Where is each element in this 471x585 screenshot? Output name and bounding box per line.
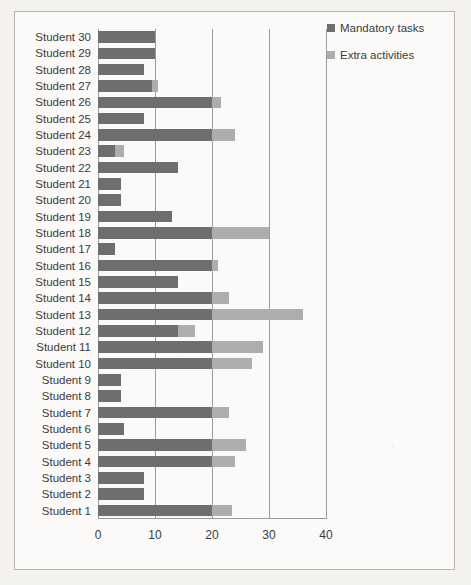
chart-legend: Mandatory tasksExtra activities bbox=[327, 22, 452, 76]
y-axis-label: Student 5 bbox=[29, 437, 95, 453]
bar-segment-mandatory bbox=[98, 178, 121, 190]
legend-item[interactable]: Extra activities bbox=[327, 49, 452, 61]
bar-segment-extra bbox=[212, 129, 235, 141]
bar-row bbox=[98, 339, 326, 355]
bar-segment-mandatory bbox=[98, 456, 212, 468]
bar-segment-extra bbox=[212, 309, 303, 321]
bar-row bbox=[98, 503, 326, 519]
bar-row bbox=[98, 307, 326, 323]
y-axis-label: Student 27 bbox=[29, 78, 95, 94]
bar-segment-mandatory bbox=[98, 31, 155, 43]
y-axis-label: Student 11 bbox=[29, 339, 95, 355]
bar-segment-mandatory bbox=[98, 407, 212, 419]
bar-row bbox=[98, 290, 326, 306]
bar-segment-mandatory bbox=[98, 390, 121, 402]
bar-row bbox=[98, 323, 326, 339]
y-axis-label: Student 8 bbox=[29, 388, 95, 404]
bar-row bbox=[98, 486, 326, 502]
bar-segment-extra bbox=[212, 439, 246, 451]
bar-segment-mandatory bbox=[98, 309, 212, 321]
bar-segment-extra bbox=[212, 97, 221, 109]
bar-segment-mandatory bbox=[98, 211, 172, 223]
bar-segment-mandatory bbox=[98, 505, 212, 517]
y-axis-label: Student 1 bbox=[29, 503, 95, 519]
x-tick-label: 40 bbox=[319, 528, 332, 542]
bar-segment-extra bbox=[212, 456, 235, 468]
plot-area bbox=[98, 29, 326, 519]
y-axis-label: Student 18 bbox=[29, 225, 95, 241]
bar-segment-mandatory bbox=[98, 292, 212, 304]
bar-segment-mandatory bbox=[98, 80, 152, 92]
bar-segment-mandatory bbox=[98, 162, 178, 174]
y-axis-label: Student 9 bbox=[29, 372, 95, 388]
bar-row bbox=[98, 209, 326, 225]
y-axis-label: Student 6 bbox=[29, 421, 95, 437]
bar-segment-mandatory bbox=[98, 260, 212, 272]
x-axis-line bbox=[98, 518, 326, 519]
bar-segment-mandatory bbox=[98, 129, 212, 141]
y-axis-label: Student 13 bbox=[29, 307, 95, 323]
y-axis-label: Student 23 bbox=[29, 143, 95, 159]
bar-segment-mandatory bbox=[98, 227, 212, 239]
y-axis-label: Student 29 bbox=[29, 45, 95, 61]
bar-segment-mandatory bbox=[98, 358, 212, 370]
bar-segment-mandatory bbox=[98, 145, 115, 157]
bar-segment-extra bbox=[212, 505, 232, 517]
y-axis-label: Student 14 bbox=[29, 290, 95, 306]
bar-segment-extra bbox=[212, 260, 218, 272]
y-axis-label: Student 25 bbox=[29, 111, 95, 127]
bar-segment-mandatory bbox=[98, 488, 144, 500]
bar-row bbox=[98, 225, 326, 241]
bar-row bbox=[98, 29, 326, 45]
bar-row bbox=[98, 405, 326, 421]
bar-row bbox=[98, 94, 326, 110]
bar-segment-mandatory bbox=[98, 325, 178, 337]
y-axis-label: Student 22 bbox=[29, 160, 95, 176]
bar-row bbox=[98, 127, 326, 143]
legend-swatch-extra bbox=[327, 51, 335, 59]
bar-segment-mandatory bbox=[98, 97, 212, 109]
y-axis-label: Student 4 bbox=[29, 454, 95, 470]
bar-row bbox=[98, 241, 326, 257]
y-axis-label: Student 3 bbox=[29, 470, 95, 486]
bar-row bbox=[98, 62, 326, 78]
bar-row bbox=[98, 192, 326, 208]
legend-swatch-mandatory bbox=[327, 24, 335, 32]
bar-segment-mandatory bbox=[98, 423, 124, 435]
bar-segment-extra bbox=[212, 292, 229, 304]
bar-row bbox=[98, 111, 326, 127]
bar-segment-extra bbox=[115, 145, 124, 157]
bar-row bbox=[98, 258, 326, 274]
legend-item[interactable]: Mandatory tasks bbox=[327, 22, 452, 34]
bar-segment-mandatory bbox=[98, 48, 155, 60]
bar-row bbox=[98, 78, 326, 94]
bar-segment-extra bbox=[212, 341, 263, 353]
bar-segment-extra bbox=[178, 325, 195, 337]
bar-row bbox=[98, 388, 326, 404]
bar-row bbox=[98, 143, 326, 159]
x-tick-label: 30 bbox=[262, 528, 275, 542]
bar-row bbox=[98, 437, 326, 453]
x-axis-tick-labels: 010203040 bbox=[98, 528, 358, 548]
y-axis-label: Student 15 bbox=[29, 274, 95, 290]
legend-label: Mandatory tasks bbox=[340, 22, 424, 34]
bar-row bbox=[98, 421, 326, 437]
gridline-40 bbox=[326, 29, 327, 519]
y-axis-label: Student 21 bbox=[29, 176, 95, 192]
bar-segment-extra bbox=[212, 407, 229, 419]
bar-row bbox=[98, 470, 326, 486]
bar-rows bbox=[98, 29, 326, 519]
bar-row bbox=[98, 274, 326, 290]
y-axis-label: Student 2 bbox=[29, 486, 95, 502]
bar-segment-mandatory bbox=[98, 113, 144, 125]
y-axis-label: Student 19 bbox=[29, 209, 95, 225]
y-axis-label: Student 20 bbox=[29, 192, 95, 208]
y-axis-label: Student 24 bbox=[29, 127, 95, 143]
y-axis-label: Student 26 bbox=[29, 94, 95, 110]
y-axis-label: Student 10 bbox=[29, 356, 95, 372]
bar-segment-mandatory bbox=[98, 194, 121, 206]
y-axis-label: Student 30 bbox=[29, 29, 95, 45]
x-tick-label: 0 bbox=[95, 528, 102, 542]
bar-row bbox=[98, 372, 326, 388]
bar-segment-mandatory bbox=[98, 64, 144, 76]
